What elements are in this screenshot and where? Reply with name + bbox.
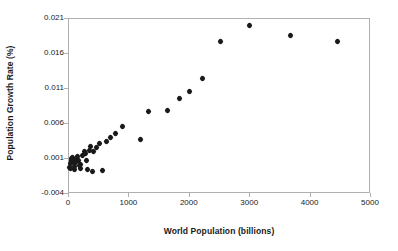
x-tick-mark xyxy=(128,193,129,197)
x-tick-label: 2000 xyxy=(169,199,209,207)
x-tick-label: 0 xyxy=(48,199,88,207)
x-tick-label: 5000 xyxy=(350,199,390,207)
y-tick-mark xyxy=(64,88,68,89)
y-tick-label: 0.011 xyxy=(18,84,64,92)
x-tick-label: 4000 xyxy=(290,199,330,207)
y-tick-mark xyxy=(64,53,68,54)
x-tick-mark xyxy=(249,193,250,197)
y-tick-label: -0.004 xyxy=(18,189,64,197)
x-tick-mark xyxy=(68,193,69,197)
y-tick-mark xyxy=(64,18,68,19)
y-tick-label: 0.001 xyxy=(18,154,64,162)
x-tick-label: 1000 xyxy=(108,199,148,207)
x-axis-title: World Population (billions) xyxy=(68,226,370,236)
x-tick-mark xyxy=(189,193,190,197)
y-tick-mark xyxy=(64,123,68,124)
y-tick-label: 0.006 xyxy=(18,119,64,127)
y-axis-title: Population Growth Rate (%) xyxy=(0,0,20,205)
y-tick-label: 0.021 xyxy=(18,14,64,22)
y-axis-title-label: Population Growth Rate (%) xyxy=(5,45,15,160)
y-tick-label: 0.016 xyxy=(18,49,64,57)
scatter-chart: Population Growth Rate (%) -0.0040.0010.… xyxy=(0,0,398,251)
x-tick-label: 3000 xyxy=(229,199,269,207)
x-tick-mark xyxy=(310,193,311,197)
x-tick-mark xyxy=(370,193,371,197)
